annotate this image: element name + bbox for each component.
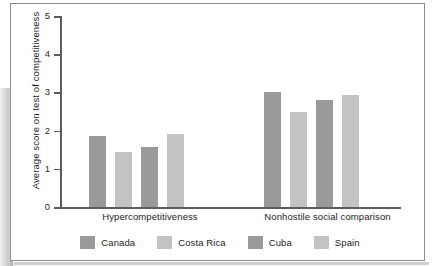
x-category-label-nonhostile-social-comparison: Nonhostile social comparison [235, 211, 420, 222]
bar-canada-hypercompetitiveness [89, 136, 106, 207]
x-axis-line [60, 207, 401, 209]
bar-chart: 5 4 3 2 1 0 Average score on test of com… [0, 0, 435, 266]
chart-legend: Canada Costa Rica Cuba Spain [60, 234, 380, 250]
bar-cuba-hypercompetitiveness [141, 147, 158, 207]
legend-label-cuba: Cuba [269, 237, 292, 248]
legend-swatch-canada [80, 236, 95, 249]
bars-layer [0, 0, 435, 207]
legend-label-canada: Canada [101, 237, 135, 248]
legend-label-spain: Spain [335, 237, 360, 248]
legend-swatch-cuba [248, 236, 263, 249]
bar-cuba-nonhostile-social-comparison [316, 100, 333, 207]
bar-canada-nonhostile-social-comparison [264, 92, 281, 207]
bar-costa-rica-hypercompetitiveness [115, 152, 132, 207]
legend-label-costa-rica: Costa Rica [178, 237, 225, 248]
bar-costa-rica-nonhostile-social-comparison [290, 112, 307, 207]
bar-spain-nonhostile-social-comparison [342, 95, 359, 207]
bar-spain-hypercompetitiveness [167, 134, 184, 207]
legend-item-cuba: Cuba [248, 236, 292, 249]
legend-swatch-costa-rica [157, 236, 172, 249]
legend-item-costa-rica: Costa Rica [157, 236, 225, 249]
y-tick-mark-0 [54, 207, 61, 209]
legend-item-spain: Spain [314, 236, 360, 249]
x-category-label-hypercompetitiveness: Hypercompetitiveness [60, 211, 240, 222]
legend-swatch-spain [314, 236, 329, 249]
legend-item-canada: Canada [80, 236, 135, 249]
